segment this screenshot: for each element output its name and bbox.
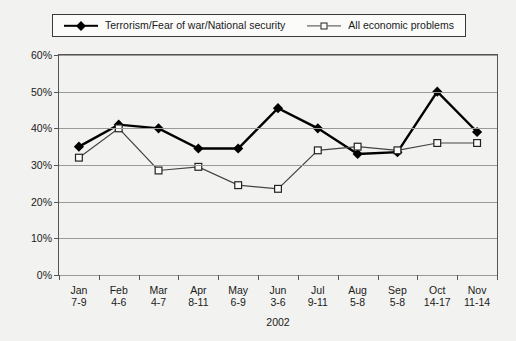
y-tick-mark	[54, 55, 59, 56]
plot-area: 0%10%20%30%40%50%60%Jan7-9Feb4-6Mar4-7Ap…	[58, 54, 498, 276]
data-point-square-icon	[275, 185, 282, 192]
legend-entry-economic: All economic problems	[307, 20, 454, 32]
x-tick-mark	[59, 275, 60, 280]
data-point-diamond-icon	[74, 142, 84, 152]
y-gridline	[59, 238, 497, 239]
data-point-square-icon	[76, 154, 83, 161]
data-point-square-icon	[155, 167, 162, 174]
y-gridline	[59, 165, 497, 166]
y-tick-mark	[54, 202, 59, 203]
x-axis-label: Aug5-8	[348, 284, 367, 308]
data-point-square-icon	[394, 147, 401, 154]
y-axis-label: 20%	[31, 196, 52, 208]
chart-container: Terrorism/Fear of war/National security …	[0, 0, 516, 341]
data-point-square-icon	[235, 182, 242, 189]
x-tick-mark	[258, 275, 259, 280]
x-axis-label: Jul9-11	[308, 284, 328, 308]
chart-legend: Terrorism/Fear of war/National security …	[52, 14, 466, 37]
y-axis-label: 30%	[31, 159, 52, 171]
data-point-square-icon	[434, 140, 441, 147]
x-tick-mark	[139, 275, 140, 280]
x-tick-mark	[338, 275, 339, 280]
x-axis-label: Jan7-9	[70, 284, 87, 308]
x-axis-label: Jun3-6	[270, 284, 287, 308]
y-axis-label: 50%	[31, 86, 52, 98]
y-tick-mark	[54, 238, 59, 239]
x-axis-label: Apr8-11	[188, 284, 208, 308]
x-axis-label: May6-9	[228, 284, 248, 308]
legend-label-economic: All economic problems	[348, 20, 454, 31]
x-tick-mark	[218, 275, 219, 280]
data-point-diamond-icon	[193, 143, 203, 153]
x-tick-mark	[497, 275, 498, 280]
y-gridline	[59, 275, 497, 276]
legend-marker-filled-diamond-icon	[64, 20, 98, 32]
x-tick-mark	[457, 275, 458, 280]
x-axis-label: Nov11-14	[464, 284, 490, 308]
x-tick-mark	[378, 275, 379, 280]
y-gridline	[59, 128, 497, 129]
data-point-square-icon	[314, 147, 321, 154]
y-tick-mark	[54, 165, 59, 166]
y-gridline	[59, 202, 497, 203]
x-axis-label: Sep5-8	[388, 284, 407, 308]
x-axis-label: Oct14-17	[424, 284, 451, 308]
legend-label-terrorism: Terrorism/Fear of war/National security	[105, 20, 285, 31]
y-axis-label: 60%	[31, 49, 52, 61]
y-axis-label: 0%	[37, 269, 52, 281]
y-axis-label: 10%	[31, 232, 52, 244]
series-terrorism	[74, 87, 482, 160]
series-line	[79, 92, 477, 154]
series-line	[79, 128, 477, 188]
series-economic	[76, 125, 481, 192]
x-tick-mark	[99, 275, 100, 280]
y-gridline	[59, 92, 497, 93]
y-axis-label: 40%	[31, 122, 52, 134]
x-tick-mark	[417, 275, 418, 280]
y-tick-mark	[54, 128, 59, 129]
y-tick-mark	[54, 92, 59, 93]
y-gridline	[59, 55, 497, 56]
x-axis-title: 2002	[266, 316, 289, 328]
data-point-square-icon	[354, 143, 361, 150]
x-axis-label: Mar4-7	[149, 284, 167, 308]
x-axis-label: Feb4-6	[110, 284, 128, 308]
x-tick-mark	[298, 275, 299, 280]
x-tick-mark	[178, 275, 179, 280]
data-point-square-icon	[474, 140, 481, 147]
legend-entry-terrorism: Terrorism/Fear of war/National security	[64, 20, 285, 32]
legend-marker-open-square-icon	[307, 20, 341, 32]
